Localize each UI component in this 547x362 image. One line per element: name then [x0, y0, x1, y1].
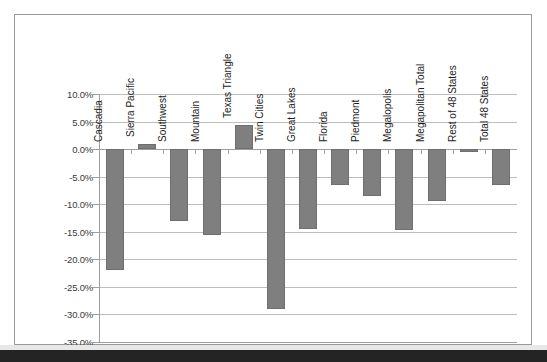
gridline [99, 122, 517, 123]
x-axis-tick [421, 149, 422, 154]
y-axis-tick-label: 10.0% [29, 89, 93, 100]
y-axis-tick-label: -25.0% [29, 281, 93, 292]
y-axis-tick [92, 177, 99, 178]
y-axis-tick [92, 287, 99, 288]
gridline [99, 259, 517, 260]
y-axis-tick [92, 94, 99, 95]
y-axis-tick-label: -15.0% [29, 226, 93, 237]
gridline [99, 94, 517, 95]
y-axis-tick [92, 122, 99, 123]
x-axis-tick [228, 149, 229, 154]
x-axis-tick [163, 149, 164, 154]
y-axis-tick-label: -20.0% [29, 254, 93, 265]
y-axis-line [99, 94, 100, 342]
y-axis-tick [92, 149, 99, 150]
plot-area [99, 94, 517, 342]
y-axis-tick [92, 314, 99, 315]
x-axis-tick [195, 149, 196, 154]
y-axis-tick-label: -10.0% [29, 199, 93, 210]
scan-edge-dark [0, 350, 547, 362]
y-axis-tick [92, 204, 99, 205]
x-axis-tick [324, 149, 325, 154]
y-axis-tick-label: 0.0% [29, 144, 93, 155]
bar [331, 149, 349, 185]
bar [106, 149, 124, 270]
x-axis-tick [292, 149, 293, 154]
x-axis-tick [485, 149, 486, 154]
bar [428, 149, 446, 201]
x-axis-tick [453, 149, 454, 154]
bar [235, 125, 253, 149]
bar [363, 149, 381, 196]
x-axis-tick [260, 149, 261, 154]
bar [203, 149, 221, 234]
bar [138, 144, 156, 150]
x-axis-tick [388, 149, 389, 154]
bar [267, 149, 285, 309]
bar [395, 149, 413, 229]
y-axis-tick [92, 259, 99, 260]
y-axis-tick [92, 342, 99, 343]
figure-frame: 10.0%5.0%0.0%-5.0%-10.0%-15.0%-20.0%-25.… [14, 14, 532, 345]
chart-page: 10.0%5.0%0.0%-5.0%-10.0%-15.0%-20.0%-25.… [0, 0, 547, 362]
gridline [99, 314, 517, 315]
y-axis-tick [92, 232, 99, 233]
x-axis-tick [131, 149, 132, 154]
gridline [99, 232, 517, 233]
y-axis-tick-label: -30.0% [29, 309, 93, 320]
y-axis-labels: 10.0%5.0%0.0%-5.0%-10.0%-15.0%-20.0%-25.… [29, 94, 93, 342]
bar [299, 149, 317, 229]
gridline [99, 342, 517, 343]
y-axis-tick-label: -5.0% [29, 171, 93, 182]
x-axis-tick [356, 149, 357, 154]
bar [460, 149, 478, 152]
y-axis-tick-label: 5.0% [29, 116, 93, 127]
bar [170, 149, 188, 221]
gridline [99, 287, 517, 288]
bar [492, 149, 510, 185]
